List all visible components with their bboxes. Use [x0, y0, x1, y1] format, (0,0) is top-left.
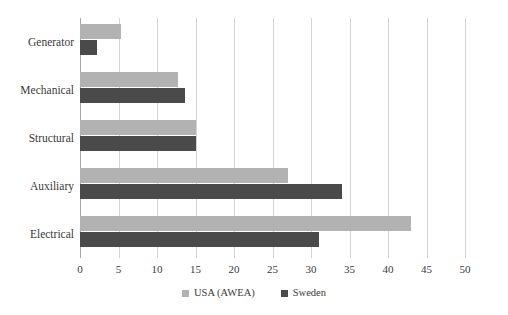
legend-label: USA (AWEA) — [194, 287, 255, 299]
bar-mechanical-usaawea — [80, 72, 178, 87]
bar-structural-usaawea — [80, 120, 196, 135]
bar-group — [80, 66, 465, 114]
legend-label: Sweden — [293, 287, 326, 299]
bar-electrical-sweden — [80, 232, 319, 247]
x-axis-tick-30: 30 — [306, 262, 317, 276]
x-axis-tick-0: 0 — [77, 262, 83, 276]
chart-legend: USA (AWEA)Sweden — [0, 287, 508, 299]
plot-area — [80, 18, 465, 258]
bar-structural-sweden — [80, 136, 196, 151]
bar-group — [80, 18, 465, 66]
legend-swatch-icon — [182, 290, 189, 297]
x-axis-tick-labels: 05101520253035404550 — [80, 262, 465, 280]
y-axis-label-generator: Generator — [0, 36, 74, 48]
x-axis-tick-35: 35 — [344, 262, 355, 276]
bar-electrical-usaawea — [80, 216, 411, 231]
bar-auxiliary-usaawea — [80, 168, 288, 183]
bar-generator-usaawea — [80, 24, 121, 39]
x-axis-tick-5: 5 — [116, 262, 122, 276]
x-axis-tick-45: 45 — [421, 262, 432, 276]
y-axis-label-electrical: Electrical — [0, 228, 74, 240]
bar-group — [80, 210, 465, 258]
y-axis-label-structural: Structural — [0, 132, 74, 144]
x-axis-tick-50: 50 — [460, 262, 471, 276]
x-axis-tick-10: 10 — [152, 262, 163, 276]
bar-chart: GeneratorMechanicalStructuralAuxiliaryEl… — [0, 0, 508, 315]
bar-group — [80, 162, 465, 210]
x-axis-tick-40: 40 — [383, 262, 394, 276]
y-axis-category-labels: GeneratorMechanicalStructuralAuxiliaryEl… — [0, 18, 74, 258]
bar-group — [80, 114, 465, 162]
bar-generator-sweden — [80, 40, 97, 55]
y-axis-label-mechanical: Mechanical — [0, 84, 74, 96]
gridline-50 — [465, 18, 466, 258]
x-axis-tick-20: 20 — [229, 262, 240, 276]
x-axis-tick-15: 15 — [190, 262, 201, 276]
bar-auxiliary-sweden — [80, 184, 342, 199]
bar-mechanical-sweden — [80, 88, 185, 103]
legend-item-sweden[interactable]: Sweden — [281, 287, 326, 299]
y-axis-label-auxiliary: Auxiliary — [0, 180, 74, 192]
x-axis-tick-25: 25 — [267, 262, 278, 276]
legend-swatch-icon — [281, 290, 288, 297]
legend-item-usaawea[interactable]: USA (AWEA) — [182, 287, 255, 299]
